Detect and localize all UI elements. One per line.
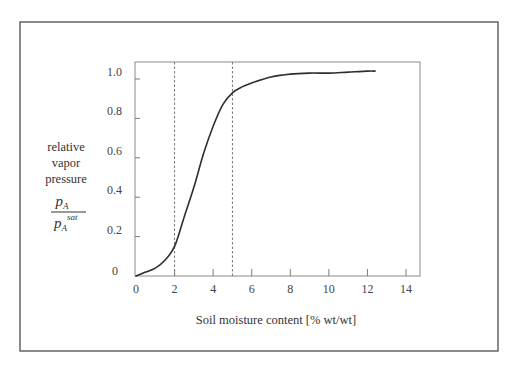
y-axis-title-line-3: pressure <box>45 172 87 186</box>
plot-box <box>135 62 420 276</box>
chart: 00.20.40.60.81.0 02468101214 Soil moistu… <box>0 0 515 366</box>
y-tick-label: 0.4 <box>107 183 122 197</box>
outer-frame <box>20 22 498 351</box>
x-tick-label: 6 <box>249 282 255 296</box>
plot-area: 00.20.40.60.81.0 02468101214 <box>107 62 420 296</box>
x-tick-label: 0 <box>133 282 139 296</box>
y-tick-label: 0.2 <box>107 223 122 237</box>
x-tick-label: 2 <box>172 282 178 296</box>
x-tick-label: 14 <box>400 282 412 296</box>
pressure-ratio-fraction: pA pAsat <box>51 193 86 233</box>
y-axis-title-line-2: vapor <box>52 156 81 170</box>
x-tick-label: 12 <box>361 282 373 296</box>
y-tick-label: 0.8 <box>107 104 122 118</box>
x-tick-label: 8 <box>287 282 293 296</box>
y-axis-title-line-1: relative <box>47 140 85 154</box>
data-curve <box>136 71 375 276</box>
y-tick-label: 1.0 <box>107 65 122 79</box>
x-axis-title: Soil moisture content [% wt/wt] <box>196 313 356 327</box>
fraction-denominator: pAsat <box>53 212 78 233</box>
x-tick-label: 4 <box>210 282 216 296</box>
reference-lines <box>175 62 233 276</box>
y-axis-title: relative vapor pressure pA pAsat <box>45 140 87 233</box>
fraction-numerator: pA <box>55 193 70 211</box>
x-axis: 02468101214 <box>133 269 412 296</box>
y-tick-label: 0.6 <box>107 144 122 158</box>
x-tick-label: 10 <box>323 282 335 296</box>
y-tick-label: 0 <box>112 264 118 278</box>
